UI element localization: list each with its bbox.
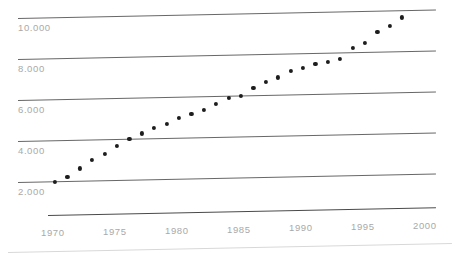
page-edge-line [8,243,452,253]
data-point [65,175,69,179]
x-axis-tick-label: 1980 [165,225,189,236]
data-point [400,15,404,19]
gridline-8000 [18,51,436,60]
y-axis-tick-label: 2.000 [18,186,45,197]
y-axis-tick-label: 6.000 [18,104,45,115]
data-point [227,96,231,100]
data-point [276,75,280,79]
data-point [363,41,367,45]
data-point [103,152,107,156]
y-axis-tick-label: 10.000 [18,22,51,33]
x-axis-tick-label: 2000 [413,220,437,231]
data-point [140,131,144,135]
scatter-chart: 2.0004.0006.0008.00010.00019701975198019… [0,0,456,259]
data-point [264,80,268,84]
data-point [351,46,355,50]
data-point [202,108,206,112]
data-point [189,112,193,116]
data-point [78,166,82,170]
data-point [289,69,293,73]
data-point [326,60,330,64]
x-axis-tick-label: 1990 [289,222,313,233]
data-point [127,137,131,141]
data-point [90,158,94,162]
data-point [375,30,379,34]
data-point [313,62,317,66]
data-point [388,24,392,28]
gridline-2000 [18,174,436,183]
x-axis-line [48,207,436,216]
x-axis-tick-label: 1975 [103,226,127,237]
data-point [251,86,255,90]
data-point [115,144,119,148]
x-axis-tick-label: 1970 [41,227,65,238]
data-point [53,180,57,184]
y-axis-tick-label: 8.000 [18,63,45,74]
data-point [214,102,218,106]
x-axis-tick-label: 1985 [227,224,251,235]
gridline-10000 [18,10,436,19]
data-point [177,116,181,120]
data-point [152,126,156,130]
plot-area: 2.0004.0006.0008.00010.00019701975198019… [0,0,456,259]
gridline-4000 [18,133,436,142]
y-axis-tick-label: 4.000 [18,145,45,156]
data-point [301,66,305,70]
data-point [239,93,243,97]
data-point [338,57,342,61]
x-axis-tick-label: 1995 [351,221,375,232]
data-point [165,122,169,126]
